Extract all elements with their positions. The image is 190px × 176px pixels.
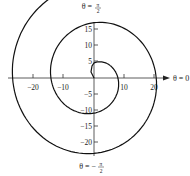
svg-text:π: π (100, 161, 103, 167)
label-theta-neg-pi-over-2: θ = − π 2 (79, 161, 104, 174)
svg-text:θ = −: θ = − (79, 162, 96, 171)
x-ticks: −20 −10 10 20 (27, 74, 158, 92)
svg-text:2: 2 (100, 168, 103, 174)
svg-text:2: 2 (97, 8, 100, 14)
y-tick-label: −15 (80, 122, 92, 131)
y-tick-label: −5 (84, 90, 92, 99)
y-tick-label: 10 (85, 41, 93, 50)
y-tick-label: 5 (88, 57, 92, 66)
x-axis-arrow-icon (163, 76, 170, 81)
label-theta-pi-over-2: θ = π 2 (82, 2, 101, 14)
y-ticks: 15 10 5 −5 −10 −15 −20 (80, 25, 98, 147)
svg-text:θ =: θ = (82, 2, 93, 11)
x-tick-label: −20 (27, 83, 39, 92)
label-theta-zero: θ = 0 (173, 74, 189, 83)
y-tick-label: 15 (85, 25, 93, 34)
y-tick-label: −20 (80, 138, 92, 147)
x-tick-label: −10 (57, 83, 69, 92)
polar-spiral-chart: −20 −10 10 20 15 10 5 −5 −10 −15 −20 θ =… (0, 0, 190, 176)
x-tick-label: 10 (120, 83, 128, 92)
